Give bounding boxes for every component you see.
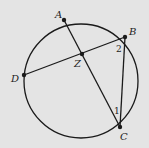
label-z: Z — [73, 58, 82, 69]
diagram-canvas: A B C D Z 1 2 — [0, 0, 149, 148]
point-a — [62, 18, 66, 22]
label-a: A — [54, 9, 62, 20]
circle-diagram: A B C D Z 1 2 — [0, 0, 149, 148]
chord-ac — [64, 20, 120, 127]
label-d: D — [10, 73, 19, 84]
point-c — [118, 125, 122, 129]
point-b — [123, 35, 127, 39]
label-c: C — [120, 131, 128, 142]
angle-2-label: 2 — [116, 44, 122, 54]
point-d — [22, 73, 26, 77]
angle-1-label: 1 — [114, 106, 120, 116]
label-b: B — [128, 26, 136, 37]
point-z — [80, 52, 84, 56]
